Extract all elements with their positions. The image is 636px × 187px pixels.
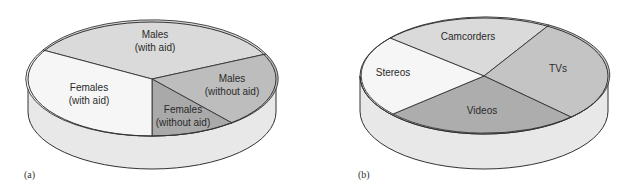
pie-chart-a-graphic: Males (with aid) Males (without aid) Fem…: [0, 0, 318, 187]
label-males-without-aid-2: (without aid): [205, 86, 259, 97]
pie-chart-a: Males (with aid) Males (without aid) Fem…: [0, 0, 318, 187]
label-males-without-aid-1: Males: [219, 73, 246, 84]
label-females-without-aid-1: Females: [164, 104, 202, 115]
label-tvs: TVs: [549, 63, 567, 74]
label-males-with-aid-1: Males: [142, 29, 169, 40]
pie-chart-b-graphic: Camcorders TVs Videos Stereos (b): [318, 0, 636, 187]
label-females-with-aid-2: (with aid): [69, 95, 110, 106]
panel-label-b: (b): [358, 169, 370, 181]
label-males-with-aid-2: (with aid): [135, 42, 176, 53]
label-videos: Videos: [467, 105, 497, 116]
label-females-with-aid-1: Females: [70, 82, 108, 93]
panel-label-a: (a): [24, 169, 35, 181]
label-camcorders: Camcorders: [441, 31, 495, 42]
label-females-without-aid-2: (without aid): [156, 117, 210, 128]
pie-chart-b: Camcorders TVs Videos Stereos (b): [318, 0, 636, 187]
label-stereos: Stereos: [376, 67, 410, 78]
